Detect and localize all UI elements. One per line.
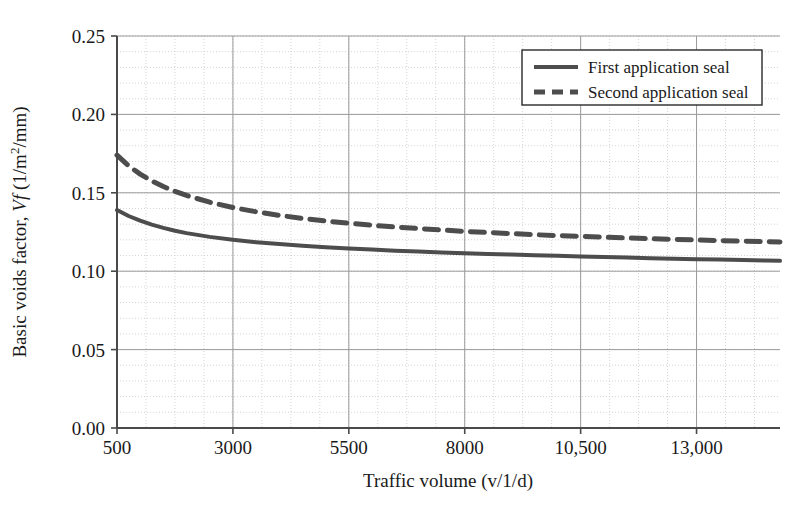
y-tick-label: 0.10 [72, 261, 105, 282]
line-chart: 50030005500800010,50013,000 0.000.050.10… [0, 0, 798, 516]
x-tick-label: 13,000 [670, 437, 722, 458]
x-tick-label: 3000 [214, 437, 252, 458]
legend-label: First application seal [588, 58, 730, 77]
y-tick-label: 0.05 [72, 340, 105, 361]
svg-text:Traffic volume (v/1/d): Traffic volume (v/1/d) [363, 470, 533, 492]
y-tick-label: 0.20 [72, 104, 105, 125]
y-tick-label: 0.25 [72, 26, 105, 47]
y-tick-label: 0.00 [72, 418, 105, 439]
x-axis-tick-labels: 50030005500800010,50013,000 [103, 437, 723, 458]
legend-label: Second application seal [588, 83, 749, 102]
x-tick-label: 10,500 [555, 437, 607, 458]
y-tick-label: 0.15 [72, 183, 105, 204]
x-tick-label: 8000 [446, 437, 484, 458]
x-tick-label: 5500 [330, 437, 368, 458]
svg-text:Basic voids factor, Vf (1/m2/m: Basic voids factor, Vf (1/m2/mm) [7, 106, 32, 357]
chart-figure: 50030005500800010,50013,000 0.000.050.10… [0, 0, 798, 516]
legend[interactable]: First application sealSecond application… [522, 50, 762, 105]
y-axis-tick-labels: 0.000.050.100.150.200.25 [72, 26, 105, 439]
x-axis-title: Traffic volume (v/1/d) [363, 470, 533, 492]
x-tick-label: 500 [103, 437, 132, 458]
y-axis-title: Basic voids factor, Vf (1/m2/mm) [7, 106, 32, 357]
